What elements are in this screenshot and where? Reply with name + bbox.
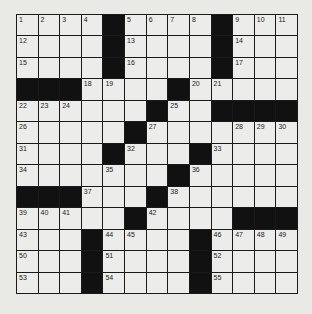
grid-cell[interactable]: [60, 122, 81, 142]
grid-cell[interactable]: 12: [17, 36, 38, 56]
grid-cell[interactable]: 55: [212, 273, 233, 293]
grid-cell[interactable]: [125, 273, 146, 293]
grid-cell[interactable]: [233, 187, 254, 207]
grid-cell[interactable]: 42: [147, 208, 168, 228]
grid-cell[interactable]: [168, 36, 189, 56]
grid-cell[interactable]: [190, 101, 211, 121]
grid-cell[interactable]: [39, 36, 60, 56]
grid-cell[interactable]: [276, 187, 297, 207]
grid-cell[interactable]: [103, 122, 124, 142]
grid-cell[interactable]: [276, 165, 297, 185]
grid-cell[interactable]: [39, 122, 60, 142]
grid-cell[interactable]: [168, 58, 189, 78]
grid-cell[interactable]: 53: [17, 273, 38, 293]
grid-cell[interactable]: 47: [233, 230, 254, 250]
grid-cell[interactable]: [82, 165, 103, 185]
grid-cell[interactable]: 19: [103, 79, 124, 99]
grid-cell[interactable]: [82, 144, 103, 164]
grid-cell[interactable]: [39, 273, 60, 293]
grid-cell[interactable]: [190, 122, 211, 142]
grid-cell[interactable]: 10: [255, 15, 276, 35]
grid-cell[interactable]: [125, 165, 146, 185]
grid-cell[interactable]: [147, 273, 168, 293]
grid-cell[interactable]: [168, 122, 189, 142]
grid-cell[interactable]: 2: [39, 15, 60, 35]
grid-cell[interactable]: [60, 36, 81, 56]
grid-cell[interactable]: [255, 165, 276, 185]
grid-cell[interactable]: [233, 79, 254, 99]
grid-cell[interactable]: [190, 58, 211, 78]
grid-cell[interactable]: [147, 165, 168, 185]
grid-cell[interactable]: 21: [212, 79, 233, 99]
grid-cell[interactable]: [276, 79, 297, 99]
grid-cell[interactable]: [168, 144, 189, 164]
grid-cell[interactable]: [147, 230, 168, 250]
grid-cell[interactable]: 31: [17, 144, 38, 164]
grid-cell[interactable]: [190, 187, 211, 207]
grid-cell[interactable]: 6: [147, 15, 168, 35]
grid-cell[interactable]: [255, 79, 276, 99]
grid-cell[interactable]: [212, 208, 233, 228]
grid-cell[interactable]: [125, 79, 146, 99]
grid-cell[interactable]: 26: [17, 122, 38, 142]
grid-cell[interactable]: 37: [82, 187, 103, 207]
grid-cell[interactable]: [103, 208, 124, 228]
grid-cell[interactable]: 34: [17, 165, 38, 185]
grid-cell[interactable]: [125, 101, 146, 121]
grid-cell[interactable]: 35: [103, 165, 124, 185]
grid-cell[interactable]: [82, 122, 103, 142]
grid-cell[interactable]: 1: [17, 15, 38, 35]
grid-cell[interactable]: [233, 165, 254, 185]
grid-cell[interactable]: [147, 79, 168, 99]
grid-cell[interactable]: [276, 251, 297, 271]
grid-cell[interactable]: 8: [190, 15, 211, 35]
grid-cell[interactable]: 16: [125, 58, 146, 78]
grid-cell[interactable]: 48: [255, 230, 276, 250]
grid-cell[interactable]: [82, 36, 103, 56]
grid-cell[interactable]: [212, 122, 233, 142]
grid-cell[interactable]: [39, 58, 60, 78]
grid-cell[interactable]: [168, 273, 189, 293]
grid-cell[interactable]: [125, 187, 146, 207]
grid-cell[interactable]: [255, 144, 276, 164]
grid-cell[interactable]: 13: [125, 36, 146, 56]
grid-cell[interactable]: 46: [212, 230, 233, 250]
grid-cell[interactable]: [147, 251, 168, 271]
grid-cell[interactable]: 17: [233, 58, 254, 78]
grid-cell[interactable]: [60, 230, 81, 250]
grid-cell[interactable]: [276, 144, 297, 164]
grid-cell[interactable]: 27: [147, 122, 168, 142]
grid-cell[interactable]: [39, 165, 60, 185]
grid-cell[interactable]: 49: [276, 230, 297, 250]
grid-cell[interactable]: 54: [103, 273, 124, 293]
grid-cell[interactable]: [190, 36, 211, 56]
grid-cell[interactable]: 44: [103, 230, 124, 250]
grid-cell[interactable]: 22: [17, 101, 38, 121]
grid-cell[interactable]: [82, 58, 103, 78]
grid-cell[interactable]: [103, 187, 124, 207]
grid-cell[interactable]: 9: [233, 15, 254, 35]
grid-cell[interactable]: [212, 187, 233, 207]
grid-cell[interactable]: 32: [125, 144, 146, 164]
grid-cell[interactable]: 28: [233, 122, 254, 142]
grid-cell[interactable]: [39, 144, 60, 164]
grid-cell[interactable]: 7: [168, 15, 189, 35]
grid-cell[interactable]: [147, 58, 168, 78]
grid-cell[interactable]: [82, 208, 103, 228]
grid-cell[interactable]: 20: [190, 79, 211, 99]
grid-cell[interactable]: 40: [39, 208, 60, 228]
grid-cell[interactable]: [255, 251, 276, 271]
grid-cell[interactable]: [233, 251, 254, 271]
grid-cell[interactable]: [147, 144, 168, 164]
grid-cell[interactable]: 33: [212, 144, 233, 164]
grid-cell[interactable]: 38: [168, 187, 189, 207]
grid-cell[interactable]: [190, 208, 211, 228]
grid-cell[interactable]: [60, 251, 81, 271]
grid-cell[interactable]: [60, 144, 81, 164]
grid-cell[interactable]: 43: [17, 230, 38, 250]
grid-cell[interactable]: [103, 101, 124, 121]
grid-cell[interactable]: [276, 273, 297, 293]
grid-cell[interactable]: 4: [82, 15, 103, 35]
grid-cell[interactable]: 50: [17, 251, 38, 271]
grid-cell[interactable]: 45: [125, 230, 146, 250]
